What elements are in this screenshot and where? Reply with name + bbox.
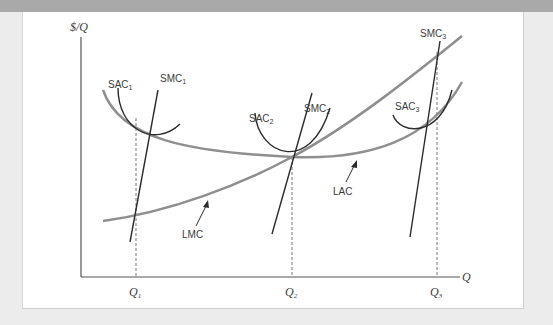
lac-label: LAC [333,186,352,197]
lmc-arrowhead [203,200,209,208]
q1-label: Q1 [129,285,141,300]
q3-label: Q3 [430,285,443,300]
sac2-label: SAC2 [249,113,274,125]
sac1-curve [118,88,180,135]
y-axis-label: $/Q [70,20,88,34]
smc2-label: SMC2 [304,103,330,115]
smc1-curve [130,90,158,242]
sac3-label: SAC3 [395,101,420,113]
cost-curves-diagram: $/Q Q Q1 Q2 Q3 SAC1 SMC1 SAC2 SMC2 SAC3 … [0,0,553,325]
lmc-label: LMC [182,229,203,240]
smc3-curve [410,41,440,237]
smc3-label: SMC3 [420,28,446,40]
smc1-label: SMC1 [160,73,186,85]
sac1-label: SAC1 [108,79,133,91]
q2-label: Q2 [285,285,298,300]
x-axis-label: Q [462,270,471,284]
lac-arrowhead [351,160,357,168]
